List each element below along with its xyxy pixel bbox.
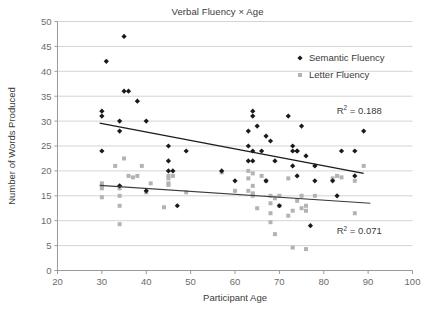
data-point	[100, 181, 104, 185]
data-point	[304, 204, 308, 208]
data-point	[353, 179, 357, 183]
data-point	[304, 247, 308, 251]
legend-marker-diamond	[297, 55, 302, 60]
r2-letter: R2 = 0.071	[337, 225, 382, 236]
data-point	[126, 89, 131, 94]
x-tick-label-50: 50	[185, 276, 196, 287]
data-point	[162, 205, 166, 209]
data-point	[352, 173, 357, 178]
y-tick-label-35: 35	[41, 91, 52, 102]
data-point	[300, 194, 304, 198]
x-axis-title: Participant Age	[203, 292, 267, 303]
data-point	[118, 204, 122, 208]
y-tick-label-30: 30	[41, 116, 52, 127]
data-point	[131, 175, 135, 179]
data-point	[121, 34, 126, 39]
data-point	[170, 168, 175, 173]
data-point	[290, 143, 295, 148]
data-point	[352, 148, 357, 153]
r2-semantic-rest: = 0.188	[347, 105, 382, 116]
data-point	[290, 163, 295, 168]
legend-item-semantic-fluency[interactable]: Semantic Fluency	[297, 52, 384, 63]
data-point	[339, 148, 344, 153]
data-point	[175, 203, 180, 208]
data-point	[259, 148, 264, 153]
data-point	[233, 189, 237, 193]
data-point	[246, 143, 251, 148]
data-point	[171, 174, 175, 178]
y-axis-title: Number of Words Produced	[6, 87, 17, 205]
letter-trendline	[100, 185, 371, 203]
data-point	[334, 193, 339, 198]
data-point	[335, 174, 339, 178]
data-point	[100, 186, 104, 190]
y-tick-label-25: 25	[41, 140, 52, 151]
data-point	[121, 89, 126, 94]
data-point	[127, 174, 131, 178]
data-point	[250, 114, 255, 119]
data-point	[255, 206, 259, 210]
y-tick-label-20: 20	[41, 165, 52, 176]
data-point	[269, 220, 273, 224]
y-tick-label-0: 0	[46, 265, 51, 276]
x-tick-label-100: 100	[405, 276, 421, 287]
x-tick-label-30: 30	[97, 276, 108, 287]
legend-label: Letter Fluency	[309, 69, 369, 80]
y-tick-label-40: 40	[41, 66, 52, 77]
data-point	[99, 109, 104, 114]
data-point	[184, 148, 189, 153]
chart-container: Verbal Fluency × Age 0510152025303540455…	[0, 0, 435, 315]
data-point	[99, 148, 104, 153]
semantic-trendline	[100, 123, 364, 173]
data-point	[361, 128, 366, 133]
r2-semantic: R2 = 0.188	[337, 104, 382, 115]
data-point	[117, 119, 122, 124]
data-point	[255, 123, 260, 128]
data-point	[291, 209, 295, 213]
x-tick-label-20: 20	[52, 276, 63, 287]
data-point	[144, 119, 149, 124]
data-point	[140, 164, 144, 168]
data-point	[290, 148, 295, 153]
data-point	[246, 176, 250, 180]
data-point	[295, 199, 299, 203]
data-point	[269, 201, 273, 205]
data-point	[250, 109, 255, 114]
data-point	[166, 158, 171, 163]
legend: Semantic FluencyLetter Fluency	[297, 52, 384, 80]
y-tick-label-5: 5	[46, 240, 51, 251]
data-point	[104, 59, 109, 64]
data-point	[291, 246, 295, 250]
data-point	[246, 189, 250, 193]
y-axis-ticks: 05101520253035404550	[41, 16, 58, 276]
data-point	[295, 173, 300, 178]
x-axis-ticks: 2030405060708090100	[52, 271, 420, 287]
x-tick-label-90: 90	[363, 276, 374, 287]
data-point	[166, 183, 170, 187]
data-point	[260, 174, 264, 178]
data-point	[286, 176, 290, 180]
data-point	[304, 209, 308, 213]
data-point	[250, 158, 255, 163]
data-point	[273, 232, 277, 236]
data-point	[362, 164, 366, 168]
data-point	[300, 206, 304, 210]
data-point	[263, 133, 268, 138]
scatter-plot: 051015202530354045502030405060708090100P…	[0, 0, 435, 315]
data-point	[122, 156, 126, 160]
y-tick-label-10: 10	[41, 215, 52, 226]
legend-item-letter-fluency[interactable]: Letter Fluency	[298, 69, 369, 80]
data-point	[118, 222, 122, 226]
data-point	[272, 158, 277, 163]
data-point	[286, 214, 290, 218]
data-point	[113, 164, 117, 168]
r2-letter-rest: = 0.071	[347, 225, 382, 236]
data-point	[308, 223, 313, 228]
x-tick-label-80: 80	[318, 276, 329, 287]
data-point	[117, 128, 122, 133]
data-point	[100, 195, 104, 199]
data-point	[312, 178, 317, 183]
data-point	[135, 174, 139, 178]
data-point	[299, 123, 304, 128]
data-point	[246, 158, 251, 163]
